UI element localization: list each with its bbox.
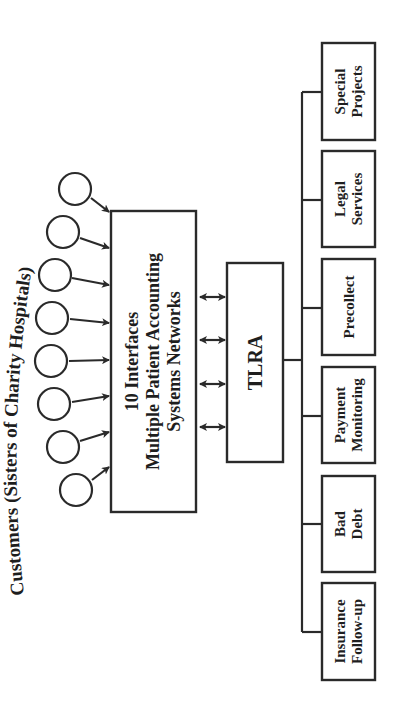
service-label-line-2: Monitoring [349,378,365,452]
tlra-box: TLRA [227,263,283,462]
service-box-insurance-follow-up: Insurance Follow-up [322,583,375,680]
customer-node-icon [35,345,67,377]
arrow-icon [80,238,109,248]
interfaces-box: 10 Interfaces Multiple Patient Accountin… [111,211,196,512]
service-label-line-1: Payment [332,387,348,444]
arrow-icon [91,198,109,212]
customer-node-icon [36,302,68,334]
customer-node-icon [47,431,79,463]
customer-node-icon [38,388,70,420]
customer-node-icon [39,259,71,291]
service-label-line-2: Projects [349,65,365,117]
customer-node-icon [47,216,79,248]
interfaces-line-3: Systems Networks [164,291,184,431]
service-label-line-1: Insurance [332,599,348,664]
interfaces-line-2: Multiple Patient Accounting [143,253,163,470]
customer-node-icon [59,173,91,205]
org-diagram: Customers (Sisters of Charity Hospitals)… [0,0,406,723]
customers-title: Customers (Sisters of Charity Hospitals) [0,265,37,597]
service-label-line-2: Debt [349,509,365,540]
service-box-legal-services: Legal Services [322,151,375,247]
tlra-label: TLRA [244,334,266,390]
service-box-special-projects: Special Projects [322,43,375,140]
service-connectors [283,92,322,632]
customer-node-icon [60,474,92,506]
service-label-line-2: Follow-up [349,599,365,664]
arrow-icon [72,278,109,285]
service-box-payment-monitoring: Payment Monitoring [322,367,375,463]
arrow-icon [69,360,109,361]
service-box-precollect: Precollect [322,259,375,355]
service-label-line-1: Special [332,69,348,115]
service-label-line-2: Services [349,173,365,226]
arrow-icon [80,432,109,441]
service-label-line-1: Legal [332,181,348,217]
service-box-bad-debt: Bad Debt [322,476,375,572]
arrow-icon [72,396,109,402]
customers-title-text: Customers (Sisters of Charity Hospitals) [0,265,37,597]
arrow-icon [70,319,109,323]
arrow-icon [92,467,109,480]
service-label-line-1: Precollect [341,275,357,338]
bidirectional-links [200,297,225,427]
service-label-line-1: Bad [332,510,348,537]
customer-nodes [35,173,92,506]
interfaces-line-1: 10 Interfaces [122,312,142,411]
